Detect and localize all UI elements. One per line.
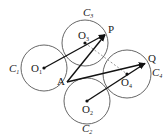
label-o4: O4 (121, 76, 132, 89)
label-o3: O3 (78, 29, 89, 42)
vector-aq (67, 64, 145, 83)
label-p: P (108, 23, 114, 35)
label-a: A (57, 75, 65, 87)
label-q: Q (148, 52, 156, 64)
label-o1: O1 (31, 62, 42, 75)
label-c3: C3 (83, 6, 93, 19)
label-c1: C1 (9, 62, 19, 75)
geometry-diagram: O1 O3 O4 O2 A P Q C1 C3 C4 C2 (0, 0, 166, 136)
point-o1 (42, 66, 45, 69)
label-o2: O2 (82, 103, 93, 116)
label-c4: C4 (152, 66, 162, 79)
